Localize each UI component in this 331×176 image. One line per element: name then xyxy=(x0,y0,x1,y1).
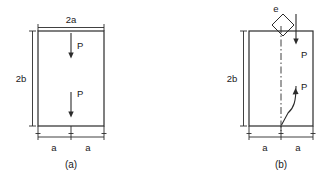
panel-a-force-label-upper: P xyxy=(77,40,83,51)
panel-b-left-dimension-label: 2b xyxy=(227,73,238,84)
panel-b-force-arrow-lower: P xyxy=(282,81,308,125)
panel-b-bottom-dimension: a a xyxy=(247,126,316,153)
panel-a-force-arrow-lower: P xyxy=(68,88,83,118)
panel-a-bottom-dimension: a a xyxy=(36,126,107,153)
panel-a-bottom-dimension-label-right: a xyxy=(85,142,91,153)
panel-a: 2a 2b P P xyxy=(16,14,107,170)
panel-b-bottom-dimension-label-right: a xyxy=(295,142,301,153)
panel-b-eccentricity-label: e xyxy=(273,3,278,14)
panel-a-left-dimension: 2b xyxy=(16,31,36,126)
panel-b-left-dimension: 2b xyxy=(227,31,247,126)
panel-a-force-arrow-upper: P xyxy=(68,33,83,59)
panel-b-caption: (b) xyxy=(275,159,287,170)
panel-a-left-dimension-label: 2b xyxy=(16,73,27,84)
panel-b-bottom-dimension-label-left: a xyxy=(262,142,268,153)
panel-b-force-label-lower: P xyxy=(301,81,307,92)
panel-a-caption: (a) xyxy=(65,159,77,170)
panel-a-top-dimension-label: 2a xyxy=(66,14,77,25)
panel-b-force-arrow-upper: P xyxy=(293,14,307,60)
panel-b-diamond-icon xyxy=(272,14,294,36)
panel-a-top-dimension-line xyxy=(38,24,104,31)
panel-a-bottom-dimension-label-left: a xyxy=(51,142,57,153)
panel-b: e 2b P P xyxy=(227,3,316,170)
panel-a-force-label-lower: P xyxy=(77,88,83,99)
engineering-figure-canvas: 2a 2b P P xyxy=(0,0,331,176)
panel-b-force-label-upper: P xyxy=(301,49,307,60)
